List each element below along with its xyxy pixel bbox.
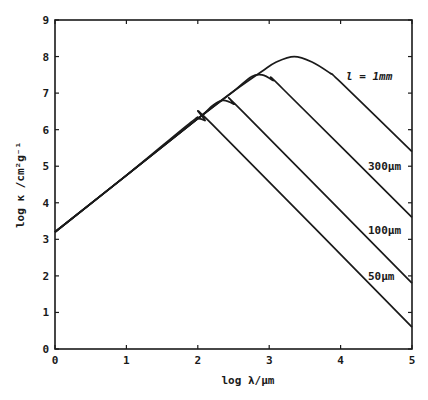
label-300um: 300µm [368, 160, 401, 173]
series-line-1 [55, 74, 412, 232]
plot-lines [55, 57, 412, 328]
label-100um: 100µm [368, 224, 401, 237]
opacity-chart: 012345 0123456789 l = 1mm 300µm 100µm 50… [0, 0, 428, 400]
series-line-3 [55, 111, 412, 327]
y-tick-label: 4 [42, 197, 49, 210]
y-tick-label: 2 [42, 270, 49, 283]
x-tick-label: 0 [52, 354, 59, 367]
y-tick-label: 8 [42, 51, 49, 64]
x-tick-label: 3 [266, 354, 273, 367]
y-tick-label: 1 [42, 306, 49, 319]
x-tick-label: 2 [194, 354, 201, 367]
x-axis-title: log λ/µm [222, 374, 275, 387]
x-tick-label: 5 [409, 354, 416, 367]
y-tick-label: 9 [42, 14, 49, 27]
series-labels: l = 1mm 300µm 100µm 50µm [346, 70, 401, 283]
y-tick-label: 6 [42, 124, 49, 137]
y-axis-title: log κ /cm²g⁻¹ [14, 142, 27, 228]
x-tick-label: 4 [337, 354, 344, 367]
y-tick-label: 0 [42, 343, 49, 356]
y-tick-label: 3 [42, 233, 49, 246]
label-50um: 50µm [368, 270, 395, 283]
x-tick-label: 1 [123, 354, 130, 367]
y-tick-label: 7 [42, 87, 49, 100]
y-tick-label: 5 [42, 160, 49, 173]
label-1mm: l = 1mm [346, 70, 393, 83]
y-axis-ticks: 0123456789 [42, 14, 412, 356]
